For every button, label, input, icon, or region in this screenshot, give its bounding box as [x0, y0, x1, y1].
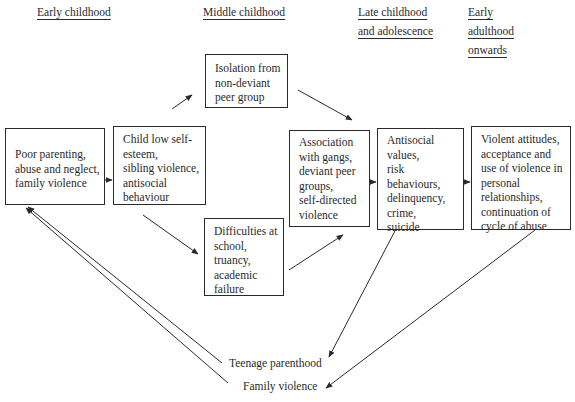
- box-text-line: school,: [214, 239, 283, 254]
- box-text-line: Antisocial: [387, 133, 463, 148]
- arrow-child-to-isolation: [172, 95, 192, 109]
- arrow-isolation-to-association: [298, 90, 352, 120]
- box-text-line: Association: [299, 135, 369, 150]
- arrow-family-violence-to-parenting: [26, 208, 228, 383]
- box-text-line: Violent attitudes,: [481, 132, 570, 147]
- box-text-line: sibling violence,: [123, 161, 205, 176]
- box-text-line: risk: [387, 162, 463, 177]
- box-text-line: abuse and neglect,: [15, 162, 104, 177]
- stage-label-early-adulthood: Early adulthood onwards: [468, 3, 514, 60]
- box-text-line: failure: [214, 282, 283, 297]
- box-text-line: family violence: [15, 176, 104, 191]
- box-text-line: antisocial: [123, 176, 205, 191]
- stage-label-line: Early: [468, 3, 493, 22]
- outcome-family-violence: Family violence: [243, 380, 317, 392]
- box-poor-parenting: Poor parenting, abuse and neglect, famil…: [5, 128, 105, 205]
- box-text-line: self-directed: [299, 193, 369, 208]
- box-text-line: Poor parenting,: [15, 147, 104, 162]
- box-text-line: Isolation from: [215, 61, 287, 76]
- stage-label-line: adulthood: [468, 22, 514, 41]
- stage-label-middle-childhood: Middle childhood: [203, 3, 285, 22]
- box-text-line: values,: [387, 148, 463, 163]
- box-text-line: non-deviant: [215, 76, 287, 91]
- box-text-line: relationships,: [481, 190, 570, 205]
- box-child-low-self-esteem: Child low self- esteem, sibling violence…: [113, 126, 206, 205]
- arrow-child-to-difficulties: [143, 215, 198, 254]
- box-text-line: Difficulties at: [214, 224, 283, 239]
- stage-label-early-childhood: Early childhood: [37, 3, 111, 22]
- box-text-line: peer group: [215, 90, 287, 105]
- box-text-line: crime,: [387, 206, 463, 221]
- box-text-line: truancy,: [214, 253, 283, 268]
- stage-label-line: Late childhood: [358, 3, 427, 22]
- outcome-teenage-parenthood: Teenage parenthood: [229, 357, 322, 369]
- box-text-line: esteem,: [123, 147, 205, 162]
- arrow-violent-to-family-violence: [326, 230, 535, 388]
- box-association-with-gangs: Association with gangs, deviant peer gro…: [289, 130, 370, 227]
- box-text-line: behaviour: [123, 190, 205, 205]
- box-difficulties-at-school: Difficulties at school, truancy, academi…: [204, 218, 284, 296]
- stage-label-line: onwards: [468, 41, 507, 60]
- stage-label-line: Middle childhood: [203, 3, 285, 22]
- box-text-line: behaviours,: [387, 177, 463, 192]
- arrow-difficulties-to-association: [289, 235, 343, 270]
- box-text-line: Child low self-: [123, 132, 205, 147]
- stage-label-line: and adolescence: [358, 22, 433, 41]
- box-text-line: deviant peer: [299, 164, 369, 179]
- box-isolation: Isolation from non-deviant peer group: [205, 54, 288, 108]
- box-text-line: violence: [299, 208, 369, 223]
- box-text-line: with gangs,: [299, 150, 369, 165]
- box-text-line: groups,: [299, 179, 369, 194]
- box-text-line: acceptance and: [481, 147, 570, 162]
- box-text-line: delinquency,: [387, 191, 463, 206]
- box-text-line: academic: [214, 268, 283, 283]
- box-text-line: suicide: [387, 220, 463, 235]
- stage-label-line: Early childhood: [37, 3, 111, 22]
- box-violent-attitudes: Violent attitudes, acceptance and use of…: [471, 126, 571, 230]
- stage-label-late-childhood: Late childhood and adolescence: [358, 3, 433, 41]
- arrow-teenage-parenthood-to-parenting: [28, 207, 222, 363]
- box-text-line: continuation of: [481, 205, 570, 220]
- arrow-antisocial-to-teenage-parenthood: [329, 229, 396, 357]
- box-text-line: use of violence in: [481, 161, 570, 176]
- box-text-line: cycle of abuse: [481, 219, 570, 234]
- box-antisocial-values: Antisocial values, risk behaviours, deli…: [377, 128, 464, 230]
- box-text-line: personal: [481, 176, 570, 191]
